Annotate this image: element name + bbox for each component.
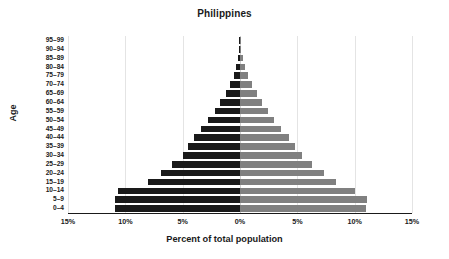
pyramid-row xyxy=(68,71,412,80)
pyramid-row xyxy=(68,142,412,151)
age-tick-label-column: 95–9990–9485–8980–8475–7970–7465–6960–64… xyxy=(20,36,64,213)
bar-female-50-54 xyxy=(240,117,274,124)
bar-female-40-44 xyxy=(240,134,289,141)
age-tick-label: 0–4 xyxy=(20,204,64,213)
bar-male-35-39 xyxy=(188,143,240,150)
bar-male-30-34 xyxy=(183,152,240,159)
pyramid-row xyxy=(68,36,412,45)
age-tick-label: 60–64 xyxy=(20,98,64,107)
population-pyramid-figure: Philippines Age 95–9990–9485–8980–8475–7… xyxy=(0,0,449,259)
bar-female-20-24 xyxy=(240,170,324,177)
bar-female-5-9 xyxy=(240,196,367,203)
bar-male-45-49 xyxy=(201,126,240,133)
bar-female-70-74 xyxy=(240,81,252,88)
gridline-pos15 xyxy=(412,36,413,213)
age-tick-label: 10–14 xyxy=(20,186,64,195)
bar-male-0-4 xyxy=(115,205,240,212)
age-tick-label: 35–39 xyxy=(20,142,64,151)
plot-area xyxy=(68,36,412,213)
age-tick-label: 40–44 xyxy=(20,133,64,142)
bar-female-55-59 xyxy=(240,108,268,115)
bar-female-85-89 xyxy=(240,55,243,62)
x-tick-label: 15% xyxy=(405,217,419,226)
bar-female-95-99 xyxy=(240,37,241,44)
bar-male-5-9 xyxy=(115,196,240,203)
pyramid-row xyxy=(68,133,412,142)
age-tick-label: 65–69 xyxy=(20,89,64,98)
bar-female-35-39 xyxy=(240,143,295,150)
x-tick-label: 10% xyxy=(347,217,361,226)
pyramid-row xyxy=(68,195,412,204)
pyramid-row xyxy=(68,54,412,63)
bar-female-10-14 xyxy=(240,188,355,195)
pyramid-row xyxy=(68,63,412,72)
bar-male-20-24 xyxy=(161,170,240,177)
pyramid-row xyxy=(68,186,412,195)
bar-male-40-44 xyxy=(194,134,240,141)
bar-male-10-14 xyxy=(118,188,240,195)
x-axis-line xyxy=(68,213,412,214)
age-tick-label: 30–34 xyxy=(20,151,64,160)
pyramid-row xyxy=(68,98,412,107)
bar-female-0-4 xyxy=(240,205,366,212)
age-tick-label: 20–24 xyxy=(20,169,64,178)
bar-female-75-79 xyxy=(240,72,248,79)
bar-female-60-64 xyxy=(240,99,262,106)
bar-female-65-69 xyxy=(240,90,257,97)
bar-female-45-49 xyxy=(240,126,281,133)
y-axis-label: Age xyxy=(8,104,18,121)
pyramid-row xyxy=(68,80,412,89)
pyramid-row xyxy=(68,204,412,213)
age-tick-label: 5–9 xyxy=(20,195,64,204)
age-tick-label: 95–99 xyxy=(20,36,64,45)
pyramid-row xyxy=(68,169,412,178)
bar-male-65-69 xyxy=(226,90,240,97)
bar-male-15-19 xyxy=(148,179,240,186)
bar-female-25-29 xyxy=(240,161,312,168)
pyramid-row xyxy=(68,116,412,125)
bar-male-55-59 xyxy=(215,108,240,115)
age-tick-label: 70–74 xyxy=(20,80,64,89)
pyramid-row xyxy=(68,125,412,134)
bar-female-30-34 xyxy=(240,152,302,159)
x-axis-label: Percent of total population xyxy=(0,234,449,244)
pyramid-row xyxy=(68,151,412,160)
bar-female-80-84 xyxy=(240,64,245,71)
bar-male-70-74 xyxy=(230,81,240,88)
pyramid-row xyxy=(68,178,412,187)
age-tick-label: 80–84 xyxy=(20,63,64,72)
x-tick-label: 10% xyxy=(118,217,132,226)
x-tick-label: 5% xyxy=(177,217,187,226)
age-tick-label: 55–59 xyxy=(20,107,64,116)
x-tick-label: 15% xyxy=(61,217,75,226)
age-tick-label: 50–54 xyxy=(20,116,64,125)
pyramid-row xyxy=(68,107,412,116)
bar-male-60-64 xyxy=(220,99,240,106)
bar-female-90-94 xyxy=(240,46,241,53)
age-tick-label: 15–19 xyxy=(20,178,64,187)
age-tick-label: 90–94 xyxy=(20,45,64,54)
age-tick-label: 45–49 xyxy=(20,125,64,134)
x-tick-label: 0% xyxy=(235,217,245,226)
age-tick-label: 25–29 xyxy=(20,160,64,169)
pyramid-row xyxy=(68,89,412,98)
pyramid-row xyxy=(68,45,412,54)
bar-male-25-29 xyxy=(172,161,240,168)
x-tick-label: 5% xyxy=(292,217,302,226)
age-tick-label: 75–79 xyxy=(20,71,64,80)
bar-female-15-19 xyxy=(240,179,336,186)
pyramid-row xyxy=(68,160,412,169)
bar-male-50-54 xyxy=(208,117,240,124)
chart-title: Philippines xyxy=(0,8,449,19)
age-tick-label: 85–89 xyxy=(20,54,64,63)
